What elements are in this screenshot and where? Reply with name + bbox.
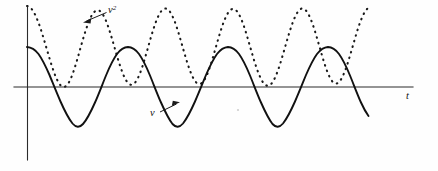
t-axis-label: t <box>406 90 410 101</box>
v-squared-arrowhead <box>83 18 91 23</box>
v-squared-label: v2 <box>108 4 117 16</box>
v-squared-exponent: 2 <box>113 4 117 12</box>
v-arrowhead <box>172 101 180 106</box>
v-squared-curve <box>27 6 369 87</box>
plot-canvas: v2 v t <box>0 0 438 171</box>
v-label: v <box>150 107 155 118</box>
paper-speck <box>237 109 239 111</box>
waveform-figure: v2 v t <box>0 0 438 171</box>
